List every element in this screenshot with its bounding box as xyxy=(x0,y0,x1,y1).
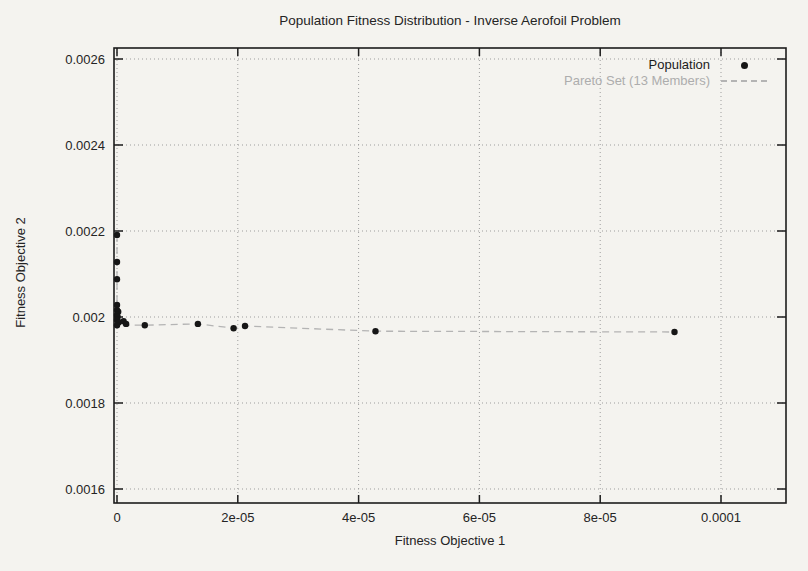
y-tick-label: 0.0026 xyxy=(65,52,105,67)
population-point xyxy=(114,232,120,238)
y-tick-label: 0.0018 xyxy=(65,396,105,411)
legend-label-pareto-set: Pareto Set (13 Members) xyxy=(564,74,710,88)
population-point xyxy=(114,259,120,265)
population-point xyxy=(114,276,120,282)
population-point xyxy=(114,322,120,328)
x-tick-label: 6e-05 xyxy=(463,510,496,525)
population-point xyxy=(142,322,148,328)
plot-border xyxy=(114,48,786,503)
population-point xyxy=(195,321,201,327)
y-tick-label: 0.0022 xyxy=(65,224,105,239)
legend-row-pareto-set: Pareto Set (13 Members) xyxy=(564,74,772,88)
population-point xyxy=(242,323,248,329)
x-tick-label: 2e-05 xyxy=(221,510,254,525)
x-tick-label: 0 xyxy=(113,510,120,525)
population-point xyxy=(230,325,236,331)
y-tick-label: 0.0016 xyxy=(65,482,105,497)
dashed-line-icon xyxy=(721,80,767,82)
filled-circle-icon xyxy=(741,62,748,69)
population-point xyxy=(123,321,129,327)
legend: Population Pareto Set (13 Members) xyxy=(564,58,772,88)
legend-label-population: Population xyxy=(649,58,710,72)
legend-row-population: Population xyxy=(564,58,772,72)
population-point xyxy=(372,328,378,334)
x-tick-label: 0.0001 xyxy=(701,510,741,525)
population-marker-icon xyxy=(716,58,772,72)
population-point xyxy=(671,329,677,335)
x-tick-label: 8e-05 xyxy=(584,510,617,525)
y-tick-label: 0.0024 xyxy=(65,138,105,153)
chart-page: Population Fitness Distribution - Invers… xyxy=(0,0,808,571)
x-tick-label: 4e-05 xyxy=(342,510,375,525)
y-tick-label: 0.002 xyxy=(72,310,105,325)
pareto-line-sample xyxy=(716,74,772,88)
